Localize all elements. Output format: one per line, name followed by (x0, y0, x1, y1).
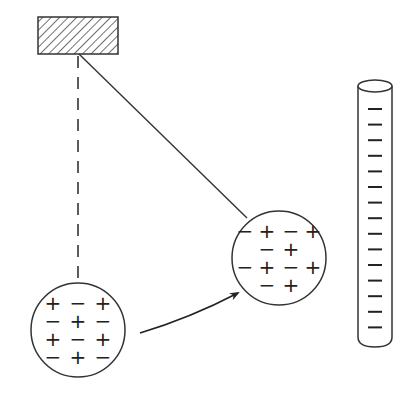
charged-rod (358, 80, 392, 347)
motion-arrow-icon (140, 293, 238, 333)
minus-charge-icon: − (237, 255, 254, 279)
minus-charge-icon: − (95, 345, 112, 369)
pendulum-string (79, 54, 247, 218)
ball-deflected-position: −+−+−+−+−+−+ (232, 211, 326, 305)
minus-charge-icon: − (259, 273, 276, 297)
plus-charge-icon: + (305, 255, 322, 279)
ball-initial-position: +−+−+−+−+−+− (31, 283, 125, 377)
plus-charge-icon: + (305, 219, 322, 243)
curved-arrow (140, 293, 238, 333)
hatched-block (38, 17, 118, 54)
diagram-canvas: Charged pith ball attracted to charged r… (0, 0, 409, 407)
minus-charge-icon: − (237, 219, 254, 243)
plus-charge-icon: + (283, 273, 300, 297)
minus-charge-icon: − (45, 345, 62, 369)
plus-charge-icon: + (70, 345, 87, 369)
string-line (79, 54, 247, 218)
ceiling-support (38, 17, 118, 54)
rod-top-ellipse (358, 80, 392, 92)
